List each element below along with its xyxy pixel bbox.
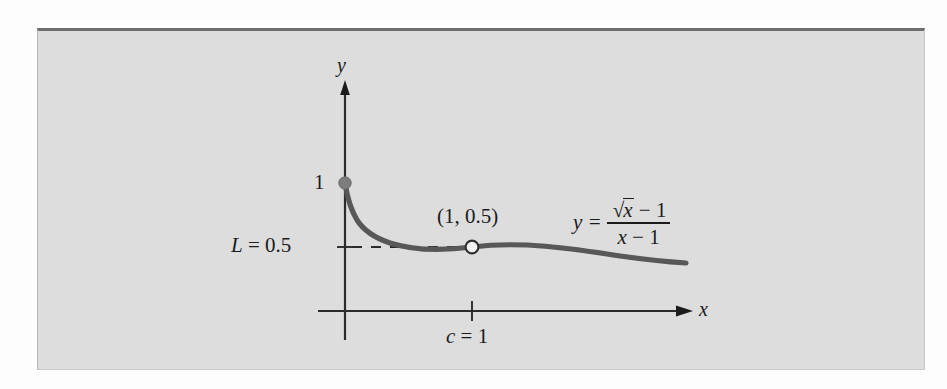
c-symbol: c: [446, 324, 455, 348]
x-axis: [318, 306, 693, 317]
point-coordinate-label: (1, 0.5): [437, 206, 498, 227]
equation-fraction: √x − 1 x − 1: [607, 198, 671, 248]
function-equation-label: y = √x − 1 x − 1: [573, 198, 670, 248]
radicand: x: [623, 198, 633, 221]
equation-denominator: x − 1: [614, 224, 664, 248]
square-root-icon: √x: [611, 198, 634, 221]
figure-root: y x 1 L = 0.5 c = 1 (1, 0.5) y = √x − 1 …: [0, 0, 947, 389]
y-tick-label-one: 1: [314, 172, 325, 193]
c-equals-value: = 1: [455, 324, 488, 348]
x-axis-label: x: [699, 299, 708, 319]
limit-equals-value: = 0.5: [243, 233, 292, 257]
denominator-variable: x: [618, 225, 627, 249]
removable-discontinuity-marker: [466, 241, 479, 254]
c-value-label: c = 1: [446, 326, 488, 347]
closed-endpoint-marker: [339, 177, 351, 189]
equation-numerator: √x − 1: [607, 198, 671, 222]
equation-left-hand-side: y =: [573, 212, 602, 233]
limit-symbol: L: [231, 233, 243, 257]
y-axis: [340, 80, 350, 340]
y-axis-label: y: [337, 55, 346, 75]
limit-value-label: L = 0.5: [231, 235, 291, 256]
